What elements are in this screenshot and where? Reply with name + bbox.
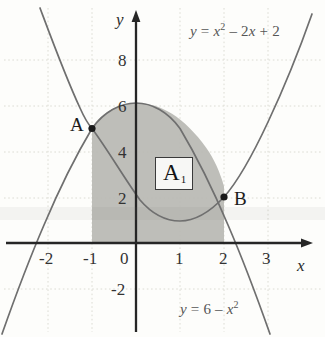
point-label-a: A — [70, 115, 84, 134]
y-tick-8: 8 — [118, 52, 127, 69]
region-label-a1: A1 — [155, 157, 193, 190]
math-plot-figure: 8 6 4 2 -2 -2 -1 0 1 2 3 x y A B y = x2 … — [0, 0, 325, 337]
eq-down-exp: 2 — [234, 299, 239, 310]
x-tick-3: 3 — [262, 250, 271, 267]
point-marker-b — [220, 193, 227, 200]
y-tick-6: 6 — [118, 98, 127, 115]
region-label-sub: 1 — [181, 173, 187, 185]
region-label-letter: A — [163, 160, 180, 185]
x-tick-0: 0 — [120, 250, 129, 267]
curve-label-parabola-up: y = x2 – 2x + 2 — [190, 22, 280, 39]
eq-up-equals: = — [197, 23, 214, 39]
eq-up-x2: x — [249, 23, 256, 39]
eq-down-equals: = 6 – — [187, 301, 227, 317]
x-axis-label: x — [297, 257, 305, 274]
x-tick-1: 1 — [175, 250, 184, 267]
y-tick-2: 2 — [118, 190, 127, 207]
y-tick-neg2: -2 — [111, 281, 125, 298]
eq-down-y: y — [180, 301, 187, 317]
x-tick-neg2: -2 — [39, 250, 53, 267]
point-marker-a — [88, 125, 95, 132]
y-tick-4: 4 — [118, 144, 127, 161]
eq-up-minus: – 2 — [225, 23, 248, 39]
eq-down-x: x — [227, 301, 234, 317]
eq-up-plus: + 2 — [256, 23, 280, 39]
curve-label-parabola-down: y = 6 – x2 — [180, 300, 239, 317]
point-label-b: B — [234, 189, 247, 208]
eq-up-y: y — [190, 23, 197, 39]
y-axis-label: y — [116, 11, 124, 28]
x-tick-2: 2 — [219, 250, 228, 267]
x-tick-neg1: -1 — [83, 250, 97, 267]
